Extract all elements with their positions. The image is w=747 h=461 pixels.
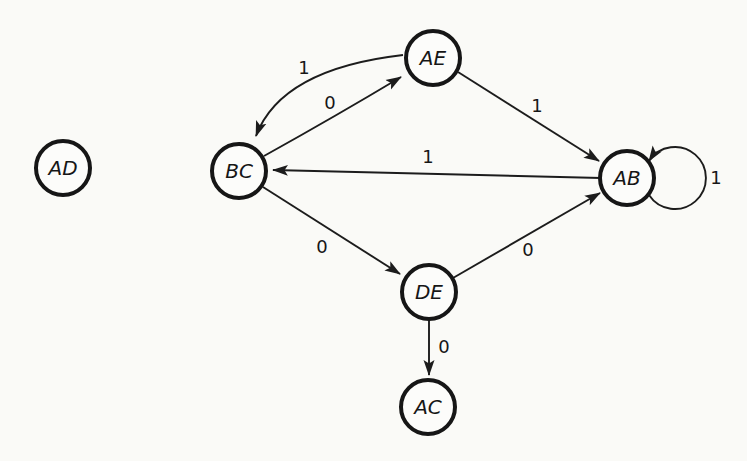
node-bc-label: BC bbox=[225, 159, 253, 183]
node-de: DE bbox=[402, 265, 456, 319]
state-diagram-svg: 1 0 1 1 0 0 0 1 AD AE BC bbox=[0, 0, 747, 461]
edge-bc-to-ae bbox=[264, 77, 401, 156]
node-ad: AD bbox=[36, 141, 90, 195]
edge-label-ab-bc: 1 bbox=[422, 146, 433, 167]
edge-labels-group: 1 0 1 1 0 0 0 1 bbox=[298, 57, 721, 357]
state-diagram-figure: 1 0 1 1 0 0 0 1 AD AE BC bbox=[0, 0, 747, 461]
edge-label-ae-ab: 1 bbox=[531, 95, 542, 116]
node-bc: BC bbox=[212, 144, 266, 198]
edge-label-ab-loop: 1 bbox=[710, 167, 721, 188]
node-ab-label: AB bbox=[611, 166, 640, 190]
edge-label-de-ab: 0 bbox=[522, 239, 533, 260]
edge-ab-to-bc bbox=[273, 170, 601, 178]
edge-bc-to-de bbox=[263, 187, 400, 274]
node-ae: AE bbox=[406, 31, 460, 85]
edge-label-ae-bc: 1 bbox=[298, 57, 309, 78]
nodes-group: AD AE BC AB DE AC bbox=[36, 31, 654, 434]
edge-ae-to-ab bbox=[458, 72, 599, 161]
edge-label-bc-de: 0 bbox=[316, 236, 327, 257]
edge-ab-self-loop bbox=[649, 147, 706, 209]
node-ae-label: AE bbox=[418, 46, 447, 70]
node-de-label: DE bbox=[415, 280, 443, 304]
node-ac-label: AC bbox=[412, 395, 442, 419]
node-ad-label: AD bbox=[46, 156, 77, 180]
node-ab: AB bbox=[600, 151, 654, 205]
edge-label-de-ac: 0 bbox=[438, 336, 449, 357]
edge-label-bc-ae: 0 bbox=[324, 92, 335, 113]
edge-de-to-ab bbox=[453, 193, 600, 278]
node-ac: AC bbox=[401, 380, 455, 434]
